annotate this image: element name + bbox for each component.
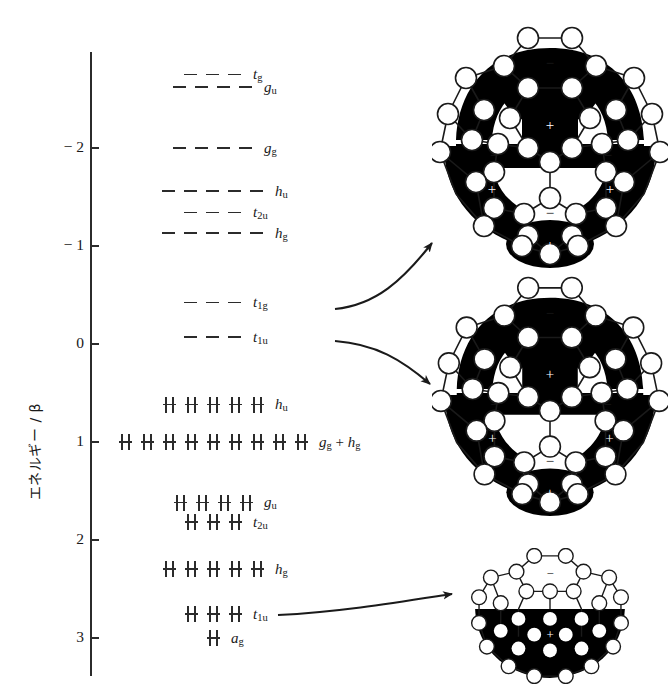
svg-text:+: + bbox=[546, 117, 554, 133]
svg-text:+: + bbox=[546, 237, 554, 253]
svg-text:−: − bbox=[604, 147, 612, 163]
t1g-orbital-picture: − + − − + + − + bbox=[432, 22, 668, 270]
svg-text:+: + bbox=[605, 430, 613, 446]
t1u-occupied-orbital-picture: − + bbox=[468, 548, 632, 684]
energy-level-figure: − 2− 10123 エネルギー / β tggugghut2uhgt1gt1u… bbox=[0, 0, 671, 686]
arrow-to-t1u-occupied-picture bbox=[278, 594, 452, 615]
svg-text:+: + bbox=[546, 628, 553, 642]
svg-text:+: + bbox=[546, 485, 554, 501]
svg-text:−: − bbox=[490, 147, 498, 163]
svg-text:−: − bbox=[546, 453, 554, 469]
arrow-to-t1u-picture bbox=[335, 341, 430, 384]
svg-text:+: + bbox=[488, 430, 496, 446]
svg-text:+: + bbox=[546, 366, 554, 382]
arrow-to-t1g-picture bbox=[335, 243, 432, 309]
svg-text:−: − bbox=[490, 396, 498, 412]
svg-text:−: − bbox=[603, 396, 611, 412]
svg-text:+: + bbox=[488, 181, 496, 197]
svg-text:+: + bbox=[606, 181, 614, 197]
svg-text:−: − bbox=[546, 305, 554, 321]
t1u-virtual-orbital-picture: − + − − + + − + bbox=[432, 272, 668, 518]
svg-text:−: − bbox=[546, 567, 553, 581]
svg-text:−: − bbox=[546, 55, 554, 71]
svg-text:−: − bbox=[546, 205, 554, 221]
